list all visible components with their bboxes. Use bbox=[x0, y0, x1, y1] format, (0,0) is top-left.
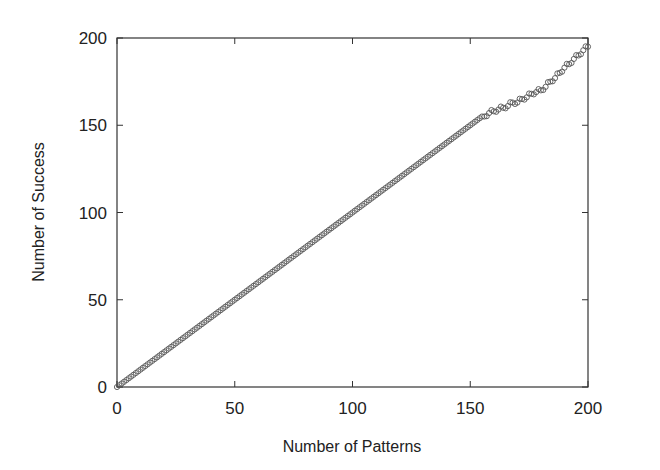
y-tick-label: 0 bbox=[98, 378, 107, 397]
x-tick-label: 100 bbox=[338, 399, 366, 418]
x-tick-label: 200 bbox=[574, 399, 602, 418]
x-tick-label: 150 bbox=[456, 399, 484, 418]
x-axis-label: Number of Patterns bbox=[283, 438, 422, 455]
y-tick-label: 100 bbox=[79, 204, 107, 223]
x-tick-label: 50 bbox=[225, 399, 244, 418]
y-tick-label: 150 bbox=[79, 116, 107, 135]
y-axis-label: Number of Success bbox=[30, 142, 47, 282]
scatter-chart: 050100150200050100150200 Number of Patte… bbox=[0, 0, 660, 470]
y-tick-label: 200 bbox=[79, 29, 107, 48]
y-tick-label: 50 bbox=[88, 291, 107, 310]
x-tick-label: 0 bbox=[112, 399, 121, 418]
data-points bbox=[114, 44, 590, 390]
